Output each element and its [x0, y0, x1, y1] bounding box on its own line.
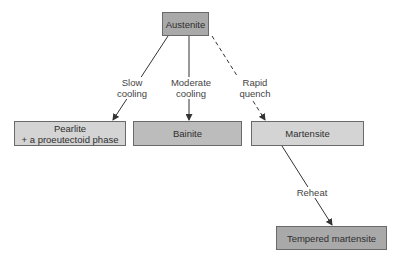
node-pearlite-line1: Pearlite	[54, 123, 86, 134]
label-reheat: Reheat	[294, 187, 330, 198]
node-tempered-martensite: Tempered martensite	[276, 226, 387, 250]
node-martensite-label: Martensite	[285, 128, 329, 139]
edge-reheat	[282, 146, 332, 225]
node-pearlite-line2: + a proeutectoid phase	[22, 134, 119, 145]
node-bainite: Bainite	[133, 121, 242, 146]
node-bainite-label: Bainite	[173, 128, 202, 139]
node-tempered-martensite-label: Tempered martensite	[287, 233, 376, 244]
label-rapid-quench: Rapid quench	[235, 77, 275, 99]
node-martensite: Martensite	[251, 121, 364, 146]
node-austenite-label: Austenite	[166, 19, 206, 30]
node-austenite: Austenite	[162, 12, 209, 36]
label-moderate-cooling: Moderate cooling	[168, 77, 214, 99]
node-pearlite: Pearlite + a proeutectoid phase	[14, 121, 126, 146]
label-slow-cooling: Slow cooling	[113, 77, 151, 99]
